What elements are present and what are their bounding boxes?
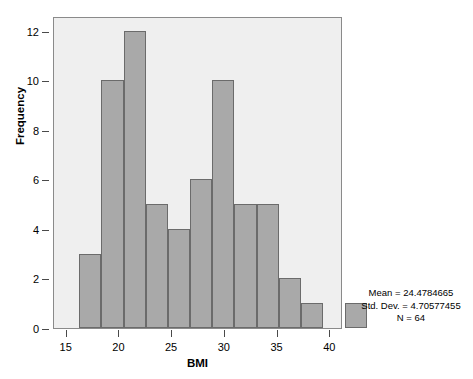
- x-tick-mark: [66, 330, 67, 337]
- y-tick-mark: [42, 32, 49, 33]
- y-tick-mark: [42, 131, 49, 132]
- stat-stddev: Std. Dev. = 4.70577455: [352, 300, 470, 313]
- histogram-bar: [212, 80, 234, 328]
- histogram-bar: [79, 254, 101, 328]
- x-tick-label: 35: [270, 341, 282, 353]
- histogram-bar: [146, 204, 168, 328]
- y-tick-label: 12: [27, 26, 39, 38]
- histogram-bar: [234, 204, 256, 328]
- y-tick-label: 6: [33, 174, 39, 186]
- statistics-annotation: Mean = 24.4784665 Std. Dev. = 4.70577455…: [352, 287, 470, 325]
- y-tick-label: 2: [33, 273, 39, 285]
- x-tick-label: 40: [323, 341, 335, 353]
- plot-area: [54, 18, 341, 328]
- histogram-bar: [124, 31, 146, 328]
- y-tick-mark: [42, 230, 49, 231]
- y-tick-mark: [42, 279, 49, 280]
- y-tick-label: 10: [27, 75, 39, 87]
- x-axis: BMI 152025303540: [0, 329, 473, 379]
- y-tick-label: 4: [33, 224, 39, 236]
- y-tick-mark: [42, 81, 49, 82]
- x-tick-label: 20: [112, 341, 124, 353]
- x-tick-label: 30: [218, 341, 230, 353]
- x-tick-label: 15: [60, 341, 72, 353]
- histogram-bar: [190, 179, 212, 328]
- histogram-bar: [168, 229, 190, 328]
- x-tick-mark: [224, 330, 225, 337]
- histogram-bar: [101, 80, 123, 328]
- histogram-bar: [279, 278, 301, 328]
- x-tick-label: 25: [165, 341, 177, 353]
- y-tick-mark: [42, 180, 49, 181]
- y-axis: Frequency 024681012: [0, 0, 53, 346]
- plot-frame: [53, 17, 342, 329]
- y-tick-label: 8: [33, 125, 39, 137]
- x-axis-title: BMI: [53, 357, 342, 369]
- x-tick-mark: [118, 330, 119, 337]
- x-tick-mark: [277, 330, 278, 337]
- stat-n: N = 64: [352, 312, 470, 325]
- histogram-bar: [301, 303, 323, 328]
- x-tick-mark: [329, 330, 330, 337]
- histogram-figure: Frequency 024681012 BMI 152025303540 Mea…: [0, 0, 473, 379]
- histogram-bar: [257, 204, 279, 328]
- stat-mean: Mean = 24.4784665: [352, 287, 470, 300]
- x-tick-mark: [171, 330, 172, 337]
- y-axis-title: Frequency: [14, 68, 26, 164]
